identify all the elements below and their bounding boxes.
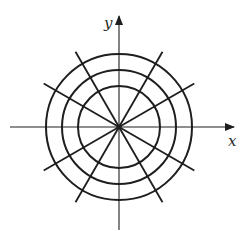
radial-line-210deg (44, 127, 119, 171)
origin-point (117, 125, 122, 130)
radial-line-30deg (119, 84, 194, 128)
y-axis-label: y (103, 14, 113, 32)
radial-line-60deg (119, 52, 163, 127)
polar-grid-diagram: x y (0, 0, 250, 231)
radial-line-120deg (76, 52, 120, 127)
radial-line-150deg (44, 84, 119, 128)
radial-line-300deg (119, 127, 163, 202)
radial-line-240deg (76, 127, 120, 202)
radial-line-330deg (119, 127, 194, 171)
x-axis-label: x (228, 132, 237, 150)
